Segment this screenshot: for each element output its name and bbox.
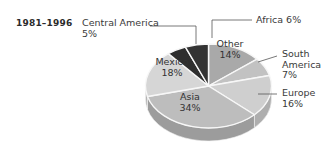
leader-line-africa [212,20,252,38]
slice-label-central-america-value: 5% [82,29,159,40]
slice-label-other-value: 14% [207,50,253,61]
chart-canvas: 1981–1996 Central America 5% Africa 6% S… [0,0,332,145]
slice-label-mexico-name: Mexico [146,57,198,68]
slice-label-other: Other 14% [207,39,253,60]
slice-label-other-name: Other [207,39,253,50]
slice-label-africa-text: Africa 6% [256,15,301,26]
slice-label-south-america: South America 7% [282,49,321,81]
slice-label-europe-value: 16% [282,99,315,110]
slice-label-central-america-name: Central America [82,18,159,29]
slice-label-europe-name: Europe [282,88,315,99]
slice-label-central-america: Central America 5% [82,18,159,39]
leader-line-south-america [258,56,277,62]
slice-label-europe: Europe 16% [282,88,315,109]
slice-label-africa: Africa 6% [256,15,301,26]
slice-label-asia: Asia 34% [168,92,212,113]
slice-label-asia-value: 34% [168,103,212,114]
slice-label-south-america-name: South [282,49,321,60]
slice-label-asia-name: Asia [168,92,212,103]
slice-label-mexico: Mexico 18% [146,57,198,78]
slice-label-mexico-value: 18% [146,68,198,79]
slice-label-south-america-value: 7% [282,70,321,81]
